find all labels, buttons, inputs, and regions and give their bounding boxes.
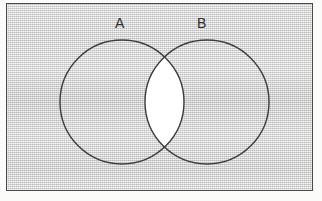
set-label-a: A (115, 16, 125, 30)
venn-circles-svg (7, 4, 313, 191)
set-label-b: B (197, 16, 207, 30)
venn-diagram-figure: A B (0, 0, 322, 201)
figure-frame-border: A B (6, 3, 313, 191)
